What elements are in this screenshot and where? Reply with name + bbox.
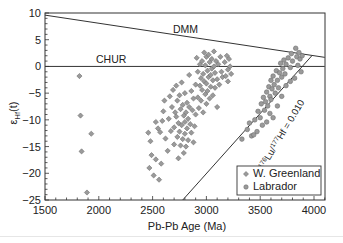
data-point [182,131,187,136]
legend-label-w-greenland: W. Greenland [253,167,320,179]
data-point [176,156,181,161]
data-point [263,99,268,104]
data-point [256,109,261,114]
data-point [186,138,191,143]
data-point [265,104,270,109]
data-point [193,112,198,117]
data-point [260,123,265,128]
data-point [229,71,234,76]
data-point [174,83,179,88]
data-point [212,85,217,90]
data-point [203,63,208,68]
legend-marker-circle-icon [244,185,248,189]
data-point [163,136,168,141]
data-point [168,128,173,133]
x-tick-label: 4000 [302,204,326,216]
data-point [290,59,295,64]
data-point [177,93,182,98]
data-point [189,88,194,93]
y-tick-label: 5 [35,34,41,46]
legend: W. Greenland Labrador [237,166,321,195]
x-tick-label: 3500 [248,204,272,216]
reference-line [45,15,325,57]
data-point [259,102,264,107]
x-tick-label: 2000 [87,204,111,216]
data-point [211,49,216,54]
data-point [174,114,179,119]
data-point [215,104,220,109]
data-point [146,130,151,135]
data-point [204,101,209,106]
data-point [89,131,94,136]
data-point [289,51,294,56]
data-point [288,79,293,84]
data-point [78,113,83,118]
data-point [173,110,178,115]
data-point [175,134,180,139]
y-tick-label: −5 [28,87,41,99]
data-point [284,62,289,67]
data-point [187,72,192,77]
data-point [178,143,183,148]
data-point [282,58,287,63]
data-point [189,130,194,135]
data-point [147,165,152,170]
bottom-divider [0,236,343,237]
data-point [159,161,164,166]
data-point [162,98,167,103]
data-point [296,63,301,68]
data-point [180,136,185,141]
data-point [177,129,182,134]
data-point [179,80,184,85]
data-point [175,98,180,103]
data-point [280,66,285,71]
data-point [84,190,89,195]
data-point [156,177,161,182]
data-point [293,46,298,51]
data-point [183,144,188,149]
data-point [196,106,201,111]
data-point [193,82,198,87]
y-tick-label: −10 [22,114,41,126]
data-point [160,118,165,123]
data-point [208,84,213,89]
data-point [245,127,250,132]
data-point [269,97,274,102]
data-point [277,71,282,76]
data-point [181,150,186,155]
data-point [153,157,158,162]
data-point [247,121,252,126]
data-point [161,109,166,114]
y-axis-suffix: (t) [7,102,19,112]
data-point [167,94,172,99]
data-point [191,140,196,145]
x-axis-title: Pb-Pb Age (Ma) [148,220,226,232]
data-point [215,77,220,82]
data-point [268,111,273,116]
data-point [283,72,288,77]
data-point [222,60,227,65]
data-point [79,149,84,154]
data-point [300,53,305,58]
data-point [149,153,154,158]
data-point [299,69,304,74]
data-point [269,78,274,83]
x-tick-label: 2500 [140,204,164,216]
chur-label: CHUR [96,53,127,65]
y-axis-title: εHf(t) [7,102,22,125]
data-point [182,91,187,96]
legend-label-labrador: Labrador [253,180,297,192]
data-point [148,139,153,144]
data-point [253,118,258,123]
data-point [77,73,82,78]
y-tick-label: 0 [35,60,41,72]
data-point [275,78,280,83]
data-point [288,65,293,70]
data-point [194,55,199,60]
data-point [219,69,224,74]
data-point [292,76,297,81]
dmm-label: DMM [173,23,198,35]
data-point [286,56,291,61]
data-point [262,108,267,113]
scatter-chart: 1500200025003000350040001050−5−10−15−20−… [0,0,343,243]
